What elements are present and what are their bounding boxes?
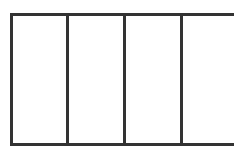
panel-1 bbox=[13, 16, 66, 143]
panel-2 bbox=[66, 16, 123, 143]
panel-4 bbox=[180, 16, 237, 143]
panel-3 bbox=[123, 16, 180, 143]
outer-rectangle bbox=[10, 13, 234, 146]
